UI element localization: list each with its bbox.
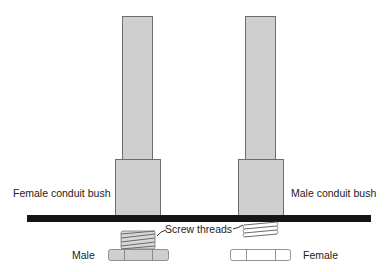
male-conduit-bush: [239, 160, 284, 216]
right-conduit-pipe: [246, 17, 276, 160]
male-nut: [109, 250, 169, 261]
conduit-bush-diagram: Female conduit bush Male conduit bush Sc…: [0, 0, 387, 272]
panel-bar: [27, 215, 371, 222]
male-screw-threads: [121, 231, 155, 249]
screw-threads-label: Screw threads: [165, 224, 232, 235]
male-conduit-bush-label: Male conduit bush: [291, 188, 376, 199]
female-nut: [231, 250, 291, 261]
female-screw-threads: [243, 222, 278, 237]
female-conduit-bush-label: Female conduit bush: [13, 188, 110, 199]
left-conduit-pipe: [123, 17, 153, 160]
screw-threads-leader-right: [233, 225, 243, 229]
male-label: Male: [72, 250, 95, 261]
female-label: Female: [303, 250, 338, 261]
female-conduit-bush: [116, 160, 161, 216]
